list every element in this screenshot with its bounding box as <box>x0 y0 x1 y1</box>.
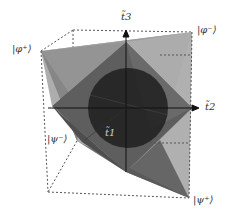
axis-label-t3: t̃3 <box>121 12 131 22</box>
vertex-label-phi-minus: |φ⁻⟩ <box>197 25 217 35</box>
axis-label-t2: t̃2 <box>205 102 215 112</box>
vertex-label-psi-plus: |ψ⁺⟩ <box>193 195 213 205</box>
cube-diagram <box>0 0 230 216</box>
axis-label-t1: t̃1 <box>105 128 115 138</box>
diagram-canvas: t̃3 t̃2 t̃1 |φ⁺⟩ |φ⁻⟩ |ψ⁻⟩ |ψ⁺⟩ <box>0 0 230 216</box>
t3-arrowhead-icon <box>123 30 129 37</box>
vertex-label-phi-plus: |φ⁺⟩ <box>12 44 32 54</box>
t2-arrowhead-icon <box>192 105 199 111</box>
vertex-label-psi-minus: |ψ⁻⟩ <box>47 134 67 144</box>
